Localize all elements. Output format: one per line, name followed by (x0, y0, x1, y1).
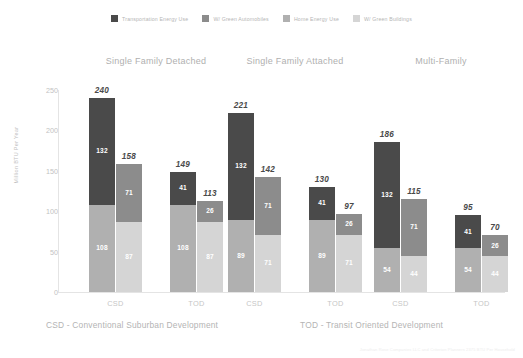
bar-segment: 26 (482, 235, 508, 256)
footnote-tod: TOD - Transit Oriented Development (300, 320, 443, 330)
stacked-bar: 132108 (89, 98, 115, 292)
bar-segment-value: 26 (491, 243, 499, 250)
bar-segment: 54 (455, 248, 481, 292)
group-title: Multi-Family (334, 56, 523, 66)
bar-segment-value: 54 (464, 267, 472, 274)
bar-segment-value: 41 (464, 229, 472, 236)
bar-total-label: 70 (490, 223, 500, 232)
stacked-bar: 2671 (336, 214, 362, 292)
bar-total-label: 186 (380, 130, 394, 139)
bar-segment: 41 (455, 215, 481, 248)
bar-segment-value: 41 (318, 200, 326, 207)
bar-total-label: 240 (95, 86, 109, 95)
bar-segment: 71 (401, 199, 427, 256)
bar-segment-value: 71 (264, 203, 272, 210)
stacked-bar: 13254 (374, 142, 400, 292)
stacked-bar: 2644 (482, 235, 508, 292)
footnote-csd: CSD - Conventional Suburban Development (46, 320, 218, 330)
bar-total-label: 95 (463, 203, 473, 212)
bar-segment: 26 (197, 201, 223, 222)
bar-segment-value: 44 (491, 271, 499, 278)
plot-area: 1321082407187158CSD411081492687113TODSin… (0, 0, 523, 358)
bar-segment-value: 26 (206, 208, 214, 215)
bar-segment: 41 (170, 172, 196, 205)
bar-total-label: 158 (122, 152, 136, 161)
bar-segment: 89 (228, 220, 254, 292)
bar-segment-value: 71 (125, 190, 133, 197)
bar-segment: 87 (116, 222, 142, 292)
x-axis-tick-label: CSD (216, 299, 293, 308)
bar-segment-value: 89 (237, 253, 245, 260)
bar-segment: 89 (309, 220, 335, 292)
bar-total-label: 149 (176, 160, 190, 169)
x-axis-tick-label: CSD (77, 299, 154, 308)
bar-segment-value: 71 (410, 224, 418, 231)
bar-segment: 71 (255, 177, 281, 234)
bar-segment-value: 87 (206, 254, 214, 261)
bar-segment-value: 71 (345, 260, 353, 267)
x-axis-tick-label: CSD (362, 299, 439, 308)
bar-segment: 26 (336, 214, 362, 235)
bar-segment: 71 (116, 164, 142, 221)
bar-segment: 71 (255, 235, 281, 292)
bar-segment-value: 132 (381, 192, 393, 199)
bar-total-label: 221 (234, 101, 248, 110)
stacked-bar: 7187 (116, 164, 142, 292)
bar-total-label: 97 (344, 202, 354, 211)
chart-root: Transportation Energy UseW/ Green Automo… (0, 0, 523, 358)
bar-total-label: 115 (407, 187, 421, 196)
bar-segment-value: 71 (264, 260, 272, 267)
x-axis-tick-label: TOD (443, 299, 520, 308)
bar-segment-value: 89 (318, 253, 326, 260)
bar-segment-value: 41 (179, 185, 187, 192)
bar-segment-value: 54 (383, 267, 391, 274)
stacked-bar: 7144 (401, 199, 427, 292)
bar-segment: 132 (228, 113, 254, 220)
bar-segment-value: 132 (235, 163, 247, 170)
bar-segment-value: 26 (345, 221, 353, 228)
bar-total-label: 130 (315, 175, 329, 184)
bar-segment: 71 (336, 235, 362, 292)
bar-segment: 132 (374, 142, 400, 249)
bar-segment: 54 (374, 248, 400, 292)
stacked-bar: 7171 (255, 177, 281, 292)
bar-segment: 108 (89, 205, 115, 292)
bar-segment-value: 108 (96, 245, 108, 252)
bar-segment-value: 87 (125, 254, 133, 261)
bar-segment-value: 132 (96, 148, 108, 155)
bar-segment: 87 (197, 222, 223, 292)
bar-segment: 108 (170, 205, 196, 292)
bar-segment: 132 (89, 98, 115, 205)
bar-segment-value: 108 (177, 245, 189, 252)
stacked-bar: 2687 (197, 201, 223, 292)
stacked-bar: 41108 (170, 172, 196, 292)
bar-segment: 41 (309, 187, 335, 220)
bar-total-label: 113 (203, 189, 217, 198)
bar-segment: 44 (482, 256, 508, 292)
bar-total-label: 142 (261, 165, 275, 174)
stacked-bar: 4154 (455, 215, 481, 292)
attribution-text: Jonathan Rose Companies LLC and Criterio… (360, 347, 515, 352)
stacked-bar: 4189 (309, 187, 335, 292)
bar-segment: 44 (401, 256, 427, 292)
bar-segment-value: 44 (410, 271, 418, 278)
stacked-bar: 13289 (228, 113, 254, 292)
